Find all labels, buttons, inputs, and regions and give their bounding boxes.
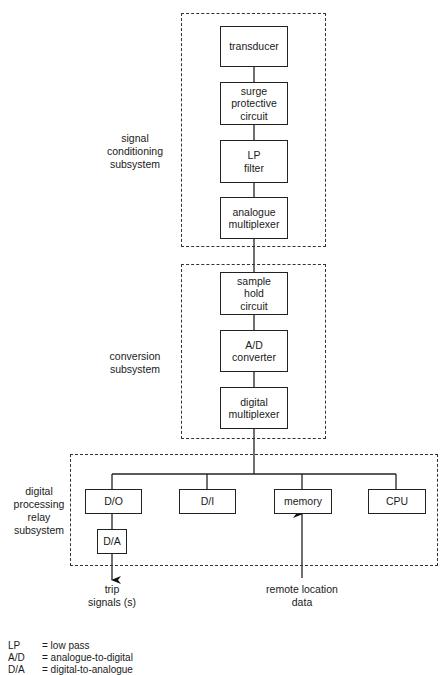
legend-row: D/A= digital-to-analogue — [8, 664, 133, 675]
transducer-block: transducer — [220, 26, 288, 67]
cpu-text: CPU — [386, 495, 408, 508]
di-text: D/I — [201, 495, 214, 508]
lp-filter-text: LP filter — [244, 149, 264, 174]
sample-hold-circuit-block: sample hold circuit — [220, 272, 288, 315]
legend-meaning: = digital-to-analogue — [42, 664, 133, 675]
memory-block: memory — [274, 489, 332, 514]
cpu-block: CPU — [368, 489, 426, 514]
do-block: D/O — [85, 489, 142, 514]
surge-text: surge protective circuit — [231, 85, 277, 123]
di-block: D/I — [179, 489, 236, 514]
ad-converter-text: A/D converter — [232, 339, 276, 364]
da-block: D/A — [97, 529, 127, 554]
legend-meaning: = analogue-to-digital — [42, 652, 133, 664]
legend-meaning: = low pass — [42, 640, 90, 652]
trip-signals-label: trip signals (s) — [72, 583, 152, 609]
analogue-mux-text: analogue multiplexer — [229, 206, 280, 231]
ad-converter-block: A/D converter — [220, 330, 288, 372]
memory-text: memory — [284, 495, 322, 508]
abbreviation-legend: LP= low pass A/D= analogue-to-digital D/… — [8, 640, 133, 675]
legend-row: LP= low pass — [8, 640, 133, 652]
digital-processing-label: digital processing relay subsystem — [8, 485, 70, 537]
conversion-label: conversion subsystem — [95, 350, 175, 376]
legend-abbr: LP — [8, 640, 42, 652]
analogue-multiplexer-block: analogue multiplexer — [220, 197, 288, 239]
signal-conditioning-label: signal conditioning subsystem — [95, 132, 175, 171]
sample-hold-text: sample hold circuit — [237, 275, 271, 313]
legend-abbr: A/D — [8, 652, 42, 664]
da-text: D/A — [103, 535, 121, 548]
surge-protective-circuit-block: surge protective circuit — [220, 82, 288, 125]
transducer-text: transducer — [229, 40, 279, 53]
digital-mux-text: digital multiplexer — [229, 396, 280, 421]
lp-filter-block: LP filter — [220, 140, 288, 183]
do-text: D/O — [104, 495, 123, 508]
digital-multiplexer-block: digital multiplexer — [220, 387, 288, 429]
remote-location-data-label: remote location data — [252, 583, 352, 609]
legend-row: A/D= analogue-to-digital — [8, 652, 133, 664]
legend-abbr: D/A — [8, 664, 42, 675]
